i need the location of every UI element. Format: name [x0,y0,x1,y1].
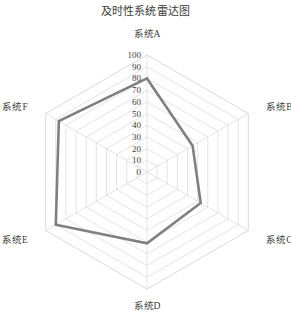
radial-tick-60: 60 [113,97,141,107]
axis-label-system-e: 系统E [0,235,28,246]
radar-plot-area [0,0,291,316]
radar-chart-figure: 及时性系统雷达图 系统A 系统B 系统C 系统D 系统E 系统F 0102030… [0,0,291,316]
axis-label-system-f: 系统F [0,102,28,113]
radial-tick-10: 10 [113,155,141,165]
radial-tick-0: 0 [113,167,141,177]
axis-label-system-c: 系统C [266,235,291,246]
axis-label-system-b: 系统B [266,102,291,113]
radial-tick-40: 40 [113,120,141,130]
radial-tick-20: 20 [113,144,141,154]
radial-tick-70: 70 [113,85,141,95]
axis-label-system-d: 系统D [130,301,164,312]
radial-tick-80: 80 [113,73,141,83]
radial-tick-90: 90 [113,62,141,72]
radial-tick-50: 50 [113,109,141,119]
axis-label-system-a: 系统A [130,29,164,40]
radial-tick-30: 30 [113,132,141,142]
radial-tick-100: 100 [113,50,141,60]
